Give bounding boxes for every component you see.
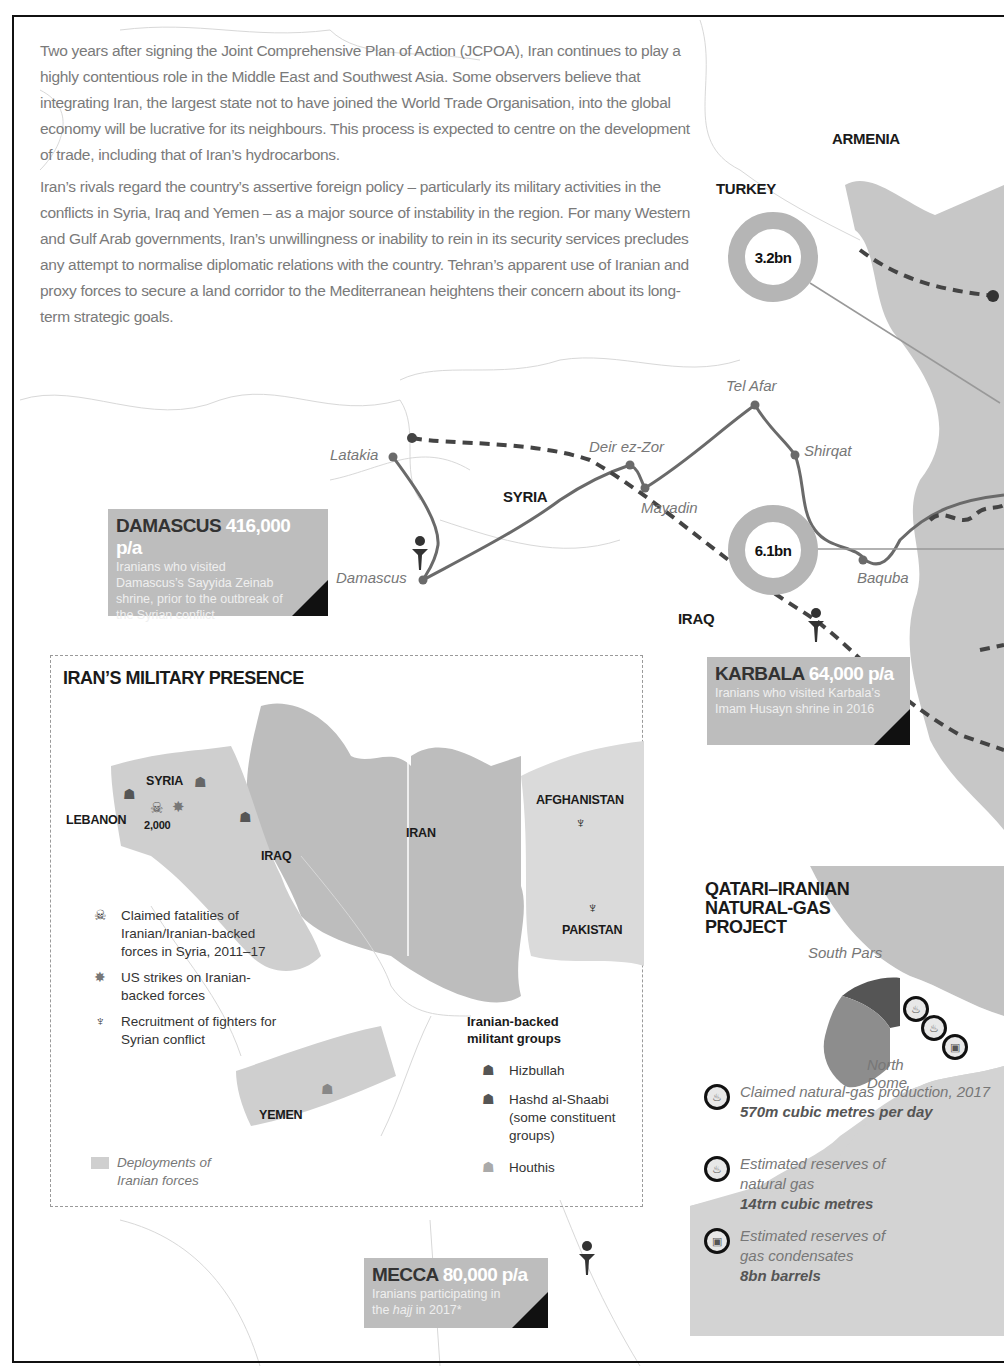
callout-karbala-value: 64,000 p/a xyxy=(809,663,894,684)
explosion-icon: ✸ xyxy=(172,798,185,816)
hashd-icon: ☗ xyxy=(239,809,252,825)
callout-damascus-place: DAMASCUS xyxy=(116,515,221,536)
legend-houthis: ☗ Houthis xyxy=(475,1159,625,1177)
item-label: Estimated reserves of gas condensates xyxy=(740,1227,885,1264)
legend-recruitment-label: Recruitment of fighters for Syrian confl… xyxy=(121,1013,277,1049)
legend-recruitment: ♆ Recruitment of fighters for Syrian con… xyxy=(87,1013,277,1049)
inset-title: IRAN’S MILITARY PRESENCE xyxy=(63,668,304,689)
qatar-item-condensates: ▣ Estimated reserves of gas condensates8… xyxy=(704,1226,910,1286)
legend-fatalities: ☠ Claimed fatalities of Iranian/Iranian-… xyxy=(87,907,277,961)
inset-label-yemen: YEMEN xyxy=(259,1108,302,1122)
city-tel-afar: Tel Afar xyxy=(726,377,777,394)
militant-groups-heading: Iranian-backed militant groups xyxy=(467,1013,597,1047)
label-turkey: TURKEY xyxy=(716,180,776,197)
skull-crossbones-icon: ☠ xyxy=(150,799,163,817)
item-label: Estimated reserves of natural gas xyxy=(740,1155,885,1192)
inset-label-lebanon: LEBANON xyxy=(66,813,126,827)
houthis-icon: ☗ xyxy=(321,1081,334,1097)
callout-mecca: MECCA 80,000 p/a Iranians participating … xyxy=(364,1258,548,1328)
skull-crossbones-icon: ☠ xyxy=(87,907,113,925)
callout-mecca-desc: Iranians participating in the hajj in 20… xyxy=(372,1286,517,1318)
gas-reserves-icon: ♨ xyxy=(704,1156,730,1182)
deployment-swatch xyxy=(91,1157,109,1169)
condensates-icon: ▣ xyxy=(704,1228,730,1254)
city-damascus: Damascus xyxy=(336,569,407,586)
legend-deployments: Deployments of Iranian forces xyxy=(91,1154,241,1190)
item-label: Claimed natural-gas production, 2017 xyxy=(740,1083,990,1100)
city-mayadin: Mayadin xyxy=(641,499,698,516)
callout-corner xyxy=(874,709,910,745)
inset-label-iraq: IRAQ xyxy=(261,849,291,863)
intro-paragraph-2: Iran’s rivals regard the country’s asser… xyxy=(40,174,700,330)
explosion-icon: ✸ xyxy=(87,969,113,987)
desc-text: in 2017* xyxy=(412,1303,461,1317)
gas-production-icon: ♨ xyxy=(704,1084,730,1110)
qatar-panel-title: QATARI–IRANIAN NATURAL-GAS PROJECT xyxy=(705,880,905,937)
legend-fatalities-label: Claimed fatalities of Iranian/Iranian-ba… xyxy=(121,907,277,961)
callout-karbala: KARBALA 64,000 p/a Iranians who visited … xyxy=(707,657,910,745)
callout-damascus-desc: Iranians who visited Damascus’s Sayyida … xyxy=(116,559,296,623)
hashd-icon: ☗ xyxy=(194,774,207,790)
legend-hizbullah-label: Hizbullah xyxy=(509,1062,565,1080)
legend-deployments-label: Deployments of Iranian forces xyxy=(117,1154,241,1190)
recruitment-icon: ♆ xyxy=(587,899,598,916)
trade-ring-turkey: 3.2bn xyxy=(728,212,818,302)
label-iraq: IRAQ xyxy=(678,610,714,627)
houthis-icon: ☗ xyxy=(475,1159,501,1177)
inset-military-presence: IRAN’S MILITARY PRESENCE SYRIA LEBANON I… xyxy=(50,655,643,1207)
city-baquba: Baquba xyxy=(857,569,909,586)
inset-label-pakistan: PAKISTAN xyxy=(562,923,622,937)
qatar-gas-panel: QATARI–IRANIAN NATURAL-GAS PROJECT South… xyxy=(690,866,1004,1336)
callout-damascus: DAMASCUS 416,000 p/a Iranians who visite… xyxy=(108,509,328,616)
desc-emphasis: hajj xyxy=(393,1303,412,1317)
label-armenia: ARMENIA xyxy=(832,130,900,147)
condensates-icon: ▣ xyxy=(942,1034,968,1060)
intro-paragraph-1: Two years after signing the Joint Compre… xyxy=(40,38,700,168)
callout-mecca-value: 80,000 p/a xyxy=(443,1264,528,1285)
item-value: 570m cubic metres per day xyxy=(740,1103,933,1120)
intro-text: Two years after signing the Joint Compre… xyxy=(40,38,700,336)
city-deir-ez-zor: Deir ez-Zor xyxy=(589,438,664,455)
legend-strikes: ✸ US strikes on Iranian-backed forces xyxy=(87,969,277,1005)
qatar-item-gas-reserves: ♨ Estimated reserves of natural gas14trn… xyxy=(704,1154,900,1214)
inset-label-afghanistan: AFGHANISTAN xyxy=(536,793,624,807)
recruitment-icon: ♆ xyxy=(575,814,586,831)
legend-hashd: ☗ Hashd al-Shaabi (some constituent grou… xyxy=(475,1091,625,1145)
legend-hizbullah: ☗ Hizbullah xyxy=(475,1062,625,1080)
callout-karbala-place: KARBALA xyxy=(715,663,804,684)
hizbullah-icon: ☗ xyxy=(475,1062,501,1080)
inset-label-iran: IRAN xyxy=(406,826,436,840)
city-shirqat: Shirqat xyxy=(804,442,852,459)
fatalities-count: 2,000 xyxy=(144,819,171,831)
trade-ring-iraq: 6.1bn xyxy=(728,505,818,595)
city-latakia: Latakia xyxy=(330,446,378,463)
legend-houthis-label: Houthis xyxy=(509,1159,555,1177)
hizbullah-icon: ☗ xyxy=(123,786,136,802)
callout-corner xyxy=(292,580,328,616)
callout-karbala-desc: Iranians who visited Karbala’s Imam Husa… xyxy=(715,685,890,717)
item-value: 14trn cubic metres xyxy=(740,1195,873,1212)
legend-strikes-label: US strikes on Iranian-backed forces xyxy=(121,969,277,1005)
hashd-icon: ☗ xyxy=(475,1091,501,1109)
recruitment-icon: ♆ xyxy=(87,1013,113,1031)
item-value: 8bn barrels xyxy=(740,1267,821,1284)
label-south-pars: South Pars xyxy=(808,944,882,961)
gas-reserves-icon: ♨ xyxy=(921,1015,947,1041)
label-syria: SYRIA xyxy=(503,488,547,505)
inset-label-syria: SYRIA xyxy=(146,774,183,788)
callout-mecca-place: MECCA xyxy=(372,1264,438,1285)
qatar-item-production: ♨ Claimed natural-gas production, 201757… xyxy=(704,1082,990,1122)
legend-hashd-label: Hashd al-Shaabi (some constituent groups… xyxy=(509,1091,625,1145)
callout-corner xyxy=(512,1292,548,1328)
